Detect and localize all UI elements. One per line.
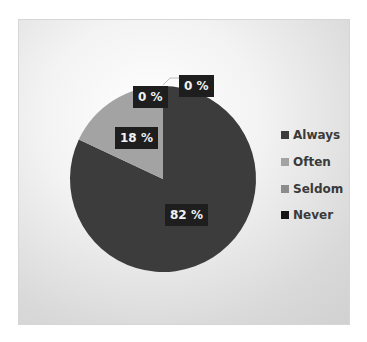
data-label-never: 0 % bbox=[179, 75, 214, 97]
legend-item-often: Often bbox=[281, 149, 343, 176]
legend-item-seldom: Seldom bbox=[281, 175, 343, 202]
leader-line bbox=[163, 78, 180, 85]
legend-label: Seldom bbox=[293, 182, 343, 196]
legend-swatch-icon bbox=[281, 211, 289, 219]
data-label-often: 18 % bbox=[115, 127, 158, 149]
legend-label: Never bbox=[293, 208, 333, 222]
legend-label: Always bbox=[293, 128, 340, 142]
legend-swatch-icon bbox=[281, 131, 289, 139]
legend-swatch-icon bbox=[281, 158, 289, 166]
data-label-seldom: 0 % bbox=[133, 86, 168, 108]
legend-swatch-icon bbox=[281, 185, 289, 193]
data-label-always: 82 % bbox=[165, 204, 208, 226]
legend: Always Often Seldom Never bbox=[281, 122, 343, 229]
legend-label: Often bbox=[293, 155, 331, 169]
legend-item-never: Never bbox=[281, 202, 343, 229]
legend-item-always: Always bbox=[281, 122, 343, 149]
